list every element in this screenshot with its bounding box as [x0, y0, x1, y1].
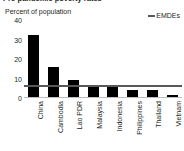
- x-axis-labels: ChinaCambodiaLao PDRMalaysiaIndonesiaPhi…: [24, 99, 182, 151]
- chart-figure: Pre-pandemic poverty rates Percent of po…: [0, 0, 184, 151]
- bar: [88, 85, 99, 97]
- plot-area: 010203040: [0, 20, 184, 98]
- bar: [127, 90, 138, 97]
- legend-label-emdes: EMDEs: [156, 12, 180, 20]
- x-label-slot: Cambodia: [44, 99, 64, 151]
- x-label-slot: Indonesia: [103, 99, 123, 151]
- bar: [28, 35, 39, 97]
- x-label-slot: Philippines: [123, 99, 143, 151]
- bar: [107, 86, 118, 97]
- chart-legend: EMDEs: [148, 12, 180, 20]
- bar: [48, 67, 59, 97]
- y-tick-label: 40: [14, 17, 22, 24]
- x-label-slot: Lao PDR: [64, 99, 84, 151]
- emdes-reference-line: [24, 85, 182, 87]
- y-tick-label: 10: [14, 75, 22, 82]
- y-tick-label: 0: [18, 95, 22, 102]
- chart-title-text: Pre-pandemic poverty rates: [3, 0, 153, 4]
- bar: [147, 90, 158, 97]
- x-label-slot: Malaysia: [83, 99, 103, 151]
- chart-title-clipped: Pre-pandemic poverty rates: [3, 0, 153, 4]
- line-marker-icon: [148, 15, 155, 17]
- y-axis: 010203040: [0, 20, 24, 98]
- x-axis-baseline: [24, 97, 182, 98]
- x-label-slot: Vietnam: [162, 99, 182, 151]
- x-label-slot: China: [24, 99, 44, 151]
- x-tick-label: Vietnam: [175, 101, 183, 127]
- plot-canvas: [24, 20, 182, 98]
- x-label-slot: Thailand: [143, 99, 163, 151]
- y-tick-label: 20: [14, 56, 22, 63]
- chart-subtitle: Percent of population: [5, 7, 71, 16]
- bar: [68, 80, 79, 97]
- y-tick-label: 30: [14, 36, 22, 43]
